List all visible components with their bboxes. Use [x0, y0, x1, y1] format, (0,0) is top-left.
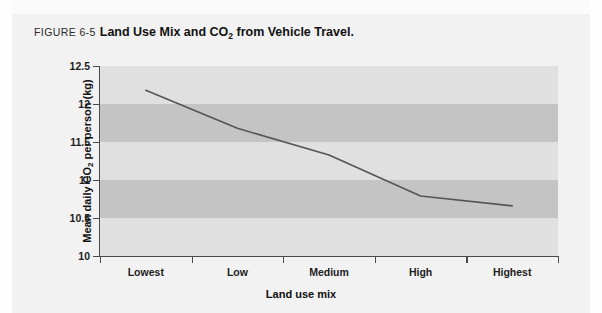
x-axis-tick — [466, 257, 467, 263]
data-line — [146, 90, 512, 206]
x-axis-tick — [100, 257, 101, 263]
x-axis-tick-label: High — [409, 266, 432, 278]
figure-title: FIGURE 6-5Land Use Mix and CO2 from Vehi… — [34, 22, 354, 40]
y-axis-tick-label: 12.5 — [44, 60, 90, 72]
x-axis-tick — [558, 257, 559, 263]
page-left-margin — [0, 0, 12, 313]
x-axis-line — [99, 256, 559, 257]
x-axis-tick — [375, 257, 376, 263]
x-axis-tick-label: Highest — [493, 266, 532, 278]
y-axis-title-holder: Mean daily CO2 per person (kg) — [30, 66, 60, 256]
figure-number: FIGURE 6-5 — [34, 26, 96, 38]
y-axis-tick — [93, 256, 99, 257]
figure-caption: Land Use Mix and CO2 from Vehicle Travel… — [100, 25, 354, 39]
y-axis-title: Mean daily CO2 per person (kg) — [81, 56, 93, 266]
page-right-margin — [590, 0, 602, 313]
y-axis-tick-label: 10.5 — [44, 212, 90, 224]
y-axis-tick-label: 11 — [44, 174, 90, 186]
y-axis-tick — [93, 104, 99, 105]
plot-area — [100, 66, 558, 256]
figure-caption-part2: from Vehicle Travel. — [233, 25, 354, 39]
y-axis-tick-label: 12 — [44, 98, 90, 110]
data-line-svg — [100, 66, 558, 256]
x-axis-tick-label: Lowest — [128, 266, 164, 278]
x-axis-tick-label: Low — [227, 266, 248, 278]
x-axis-tick — [192, 257, 193, 263]
y-axis-tick — [93, 66, 99, 67]
figure-container: FIGURE 6-5Land Use Mix and CO2 from Vehi… — [0, 0, 602, 313]
y-axis-title-subscript: 2 — [86, 162, 95, 166]
y-axis-title-part2: per person (kg) — [81, 79, 93, 162]
y-axis-tick-label: 10 — [44, 250, 90, 262]
x-axis-title: Land use mix — [0, 288, 602, 300]
x-axis-tick-label: Medium — [309, 266, 349, 278]
y-axis-tick — [93, 218, 99, 219]
x-axis-tick — [283, 257, 284, 263]
y-axis-tick — [93, 180, 99, 181]
y-axis-tick-label: 11.5 — [44, 136, 90, 148]
y-axis-tick — [93, 142, 99, 143]
figure-caption-subscript: 2 — [228, 31, 233, 41]
figure-caption-part1: Land Use Mix and CO — [100, 25, 229, 39]
y-axis-line — [99, 66, 100, 257]
page-top-margin — [0, 0, 602, 14]
